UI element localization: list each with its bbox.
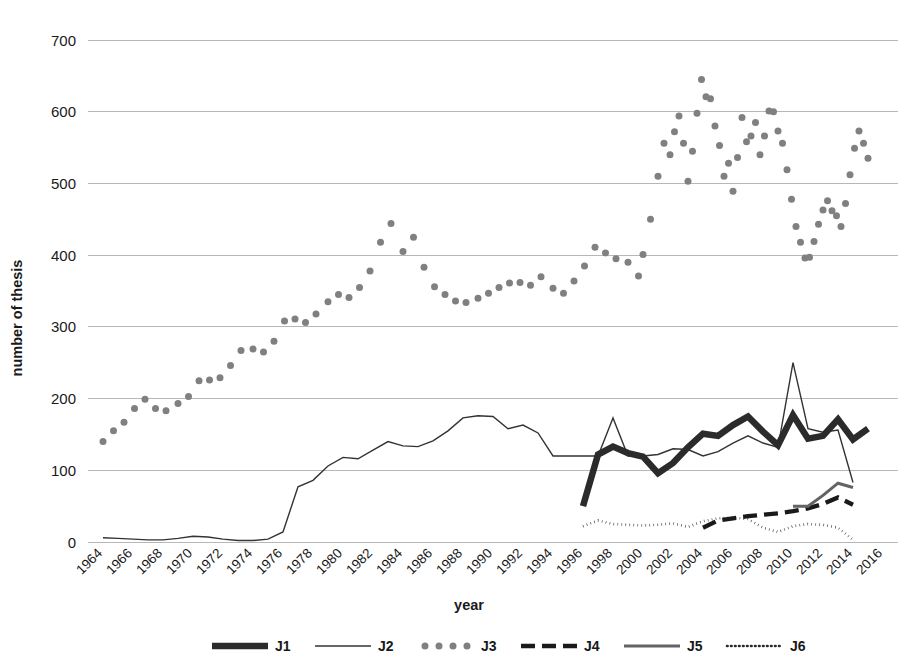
marker-j3 bbox=[496, 284, 503, 291]
marker-j3 bbox=[356, 284, 363, 291]
marker-j3 bbox=[335, 291, 342, 298]
marker-j3 bbox=[410, 234, 417, 241]
marker-j3 bbox=[811, 238, 818, 245]
marker-j3 bbox=[725, 160, 732, 167]
marker-j3 bbox=[452, 298, 459, 305]
marker-j3 bbox=[527, 282, 534, 289]
marker-j3 bbox=[707, 95, 714, 102]
marker-j3 bbox=[388, 220, 395, 227]
marker-j3 bbox=[661, 140, 668, 147]
y-tick-700: 700 bbox=[51, 32, 76, 49]
marker-j3 bbox=[779, 140, 786, 147]
x-axis-title: year bbox=[454, 597, 484, 613]
marker-j3 bbox=[506, 280, 513, 287]
marker-j3 bbox=[367, 267, 374, 274]
y-tick-300: 300 bbox=[51, 318, 76, 335]
marker-j3 bbox=[121, 419, 128, 426]
marker-j3 bbox=[793, 223, 800, 230]
marker-j3 bbox=[847, 171, 854, 178]
marker-j3 bbox=[175, 400, 182, 407]
legend-swatch-j3 bbox=[464, 643, 471, 650]
marker-j3 bbox=[676, 113, 683, 120]
marker-j3 bbox=[206, 376, 213, 383]
marker-j3 bbox=[260, 348, 267, 355]
marker-j3 bbox=[613, 255, 620, 262]
marker-j3 bbox=[716, 142, 723, 149]
marker-j3 bbox=[784, 166, 791, 173]
marker-j3 bbox=[838, 223, 845, 230]
legend-swatch-j3 bbox=[450, 643, 457, 650]
chart-container: 0100200300400500600700 19641966196819701… bbox=[0, 0, 918, 671]
y-tick-100: 100 bbox=[51, 462, 76, 479]
marker-j3 bbox=[538, 273, 545, 280]
marker-j3 bbox=[689, 148, 696, 155]
marker-j3 bbox=[635, 272, 642, 279]
marker-j3 bbox=[421, 264, 428, 271]
marker-j3 bbox=[463, 299, 470, 306]
marker-j3 bbox=[775, 128, 782, 135]
marker-j3 bbox=[185, 393, 192, 400]
y-tick-400: 400 bbox=[51, 247, 76, 264]
marker-j3 bbox=[196, 377, 203, 384]
marker-j3 bbox=[743, 138, 750, 145]
marker-j3 bbox=[475, 295, 482, 302]
marker-j3 bbox=[227, 362, 234, 369]
legend-label-j3: J3 bbox=[481, 638, 497, 654]
legend-label-j6: J6 bbox=[790, 638, 806, 654]
legend-swatch-j3 bbox=[422, 643, 429, 650]
marker-j3 bbox=[712, 123, 719, 130]
marker-j3 bbox=[730, 188, 737, 195]
y-axis-title: number of thesis bbox=[9, 260, 25, 377]
marker-j3 bbox=[655, 173, 662, 180]
marker-j3 bbox=[698, 76, 705, 83]
y-tick-0: 0 bbox=[68, 534, 76, 551]
marker-j3 bbox=[748, 133, 755, 140]
marker-j3 bbox=[685, 178, 692, 185]
marker-j3 bbox=[485, 290, 492, 297]
marker-j3 bbox=[640, 251, 647, 258]
marker-j3 bbox=[217, 374, 224, 381]
marker-j3 bbox=[625, 259, 632, 266]
marker-j3 bbox=[757, 151, 764, 158]
marker-j3 bbox=[680, 140, 687, 147]
marker-j3 bbox=[442, 291, 449, 298]
marker-j3 bbox=[377, 239, 384, 246]
marker-j3 bbox=[761, 133, 768, 140]
marker-j3 bbox=[667, 151, 674, 158]
marker-j3 bbox=[815, 221, 822, 228]
marker-j3 bbox=[851, 145, 858, 152]
marker-j3 bbox=[571, 277, 578, 284]
marker-j3 bbox=[820, 206, 827, 213]
marker-j3 bbox=[550, 285, 557, 292]
marker-j3 bbox=[734, 154, 741, 161]
marker-j3 bbox=[560, 290, 567, 297]
marker-j3 bbox=[797, 239, 804, 246]
marker-j3 bbox=[865, 155, 872, 162]
marker-j3 bbox=[770, 108, 777, 115]
legend-label-j4: J4 bbox=[584, 638, 600, 654]
line-chart: 0100200300400500600700 19641966196819701… bbox=[0, 0, 918, 671]
legend-label-j5: J5 bbox=[687, 638, 703, 654]
legend-label-j2: J2 bbox=[378, 638, 394, 654]
marker-j3 bbox=[517, 279, 524, 286]
y-tick-200: 200 bbox=[51, 390, 76, 407]
marker-j3 bbox=[581, 262, 588, 269]
marker-j3 bbox=[671, 128, 678, 135]
marker-j3 bbox=[302, 319, 309, 326]
marker-j3 bbox=[721, 173, 728, 180]
marker-j3 bbox=[752, 119, 759, 126]
marker-j3 bbox=[238, 347, 245, 354]
marker-j3 bbox=[824, 197, 831, 204]
marker-j3 bbox=[806, 254, 813, 261]
marker-j3 bbox=[163, 407, 170, 414]
y-tick-600: 600 bbox=[51, 103, 76, 120]
y-tick-500: 500 bbox=[51, 175, 76, 192]
marker-j3 bbox=[788, 196, 795, 203]
marker-j3 bbox=[250, 346, 257, 353]
marker-j3 bbox=[694, 110, 701, 117]
marker-j3 bbox=[313, 310, 320, 317]
marker-j3 bbox=[281, 318, 288, 325]
legend-swatch-j3 bbox=[436, 643, 443, 650]
marker-j3 bbox=[647, 216, 654, 223]
marker-j3 bbox=[431, 283, 438, 290]
